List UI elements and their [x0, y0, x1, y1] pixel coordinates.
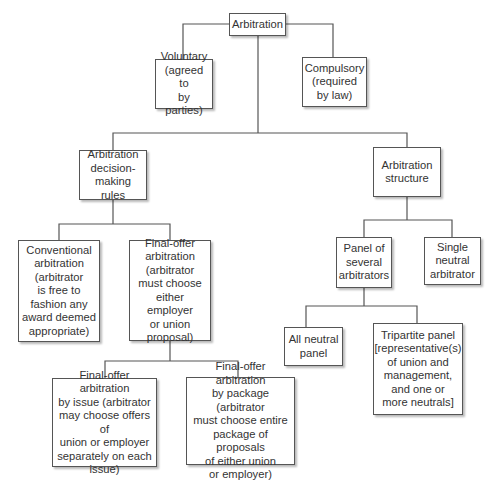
node-conventional-arbitration: Conventional arbitration (arbitrator is …: [18, 240, 100, 342]
edge-structure-branch: [364, 220, 452, 237]
node-label: Tripartite panel [representative(s) of u…: [374, 329, 461, 410]
node-label: Panel of several arbitrators: [339, 242, 389, 283]
node-label: Single neutral arbitrator: [430, 241, 475, 282]
edge-root-level2-branch: [113, 133, 407, 150]
node-arbitration-structure: Arbitration structure: [373, 147, 441, 197]
node-label: Arbitration decision- making rules: [83, 148, 143, 202]
node-final-offer-by-issue: Final-offer arbitration by issue (arbitr…: [52, 378, 157, 467]
node-arbitration: Arbitration: [229, 13, 286, 36]
node-tripartite-panel: Tripartite panel [representative(s) of u…: [373, 323, 463, 415]
node-label: Voluntary (agreed to by parties): [159, 50, 209, 118]
node-voluntary: Voluntary (agreed to by parties): [155, 59, 213, 109]
node-label: Conventional arbitration (arbitrator is …: [22, 244, 96, 339]
edge-root-compulsory: [286, 24, 333, 57]
node-label: Arbitration: [232, 18, 283, 32]
node-final-offer-by-package: Final-offer arbitration by package (arbi…: [186, 377, 295, 465]
node-single-neutral-arbitrator: Single neutral arbitrator: [424, 237, 481, 285]
node-label: All neutral panel: [289, 333, 339, 360]
node-label: Compulsory (required by law): [305, 62, 365, 103]
node-label: Final-offer arbitration by package (arbi…: [190, 360, 291, 482]
node-compulsory: Compulsory (required by law): [302, 57, 367, 107]
node-final-offer-arbitration: Final-offer arbitration (arbitrator must…: [129, 240, 211, 341]
arbitration-tree-diagram: Arbitration Voluntary (agreed to by part…: [0, 0, 495, 483]
node-decision-making-rules: Arbitration decision- making rules: [79, 150, 147, 200]
node-all-neutral-panel: All neutral panel: [284, 327, 343, 366]
node-label: Arbitration structure: [382, 159, 433, 186]
node-label: Final-offer arbitration (arbitrator must…: [133, 237, 207, 345]
node-label: Final-offer arbitration by issue (arbitr…: [56, 369, 153, 477]
node-panel-of-arbitrators: Panel of several arbitrators: [336, 237, 392, 288]
